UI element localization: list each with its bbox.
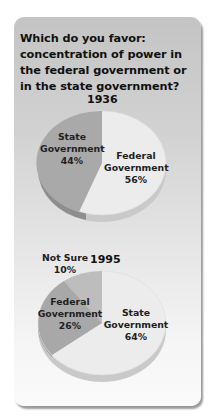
label-federal-1995: Federal Government 26% xyxy=(36,296,104,332)
pie-chart-1995 xyxy=(0,0,212,419)
label-state-1995: State Government 64% xyxy=(102,307,170,343)
